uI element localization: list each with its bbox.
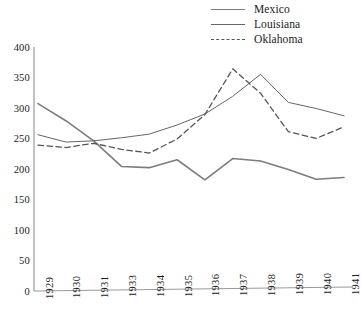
y-axis-tick-labels: 050100150200250300350400 xyxy=(0,0,30,333)
y-tick-50: 50 xyxy=(4,256,30,266)
y-tick-150: 150 xyxy=(4,195,30,205)
y-tick-250: 250 xyxy=(4,134,30,144)
legend-label-oklahoma: Oklahoma xyxy=(248,33,303,46)
axis-lines xyxy=(34,47,352,291)
legend-item-mexico: Mexico xyxy=(208,2,354,16)
data-series-group xyxy=(38,69,344,180)
chart-legend: Mexico Louisiana Oklahoma xyxy=(208,2,354,47)
legend-line-swatch-oklahoma xyxy=(208,33,248,45)
y-tick-300: 300 xyxy=(4,104,30,114)
series-line-louisiana xyxy=(38,74,344,142)
legend-line-swatch-louisiana xyxy=(208,18,248,30)
series-line-oklahoma xyxy=(38,69,344,153)
legend-item-louisiana: Louisiana xyxy=(208,17,354,31)
y-tick-0: 0 xyxy=(4,287,30,297)
y-tick-400: 400 xyxy=(4,43,30,53)
y-tick-350: 350 xyxy=(4,73,30,83)
x-axis-line xyxy=(34,287,352,291)
legend-label-louisiana: Louisiana xyxy=(248,18,300,31)
y-tick-200: 200 xyxy=(4,165,30,175)
y-tick-100: 100 xyxy=(4,226,30,236)
legend-line-swatch-mexico xyxy=(208,3,248,15)
legend-label-mexico: Mexico xyxy=(248,3,290,16)
legend-item-oklahoma: Oklahoma xyxy=(208,32,354,46)
